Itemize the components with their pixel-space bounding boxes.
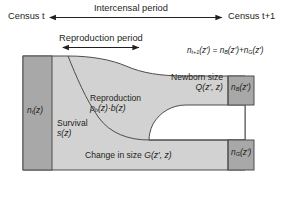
right-top-column-label: nB(z′) xyxy=(231,83,251,93)
left-column-label: nt(z) xyxy=(27,106,43,116)
newborn-size-region-label: Newborn size Q(z′, z) xyxy=(151,73,223,93)
right-bottom-column-label: nG(z′) xyxy=(231,148,251,158)
reproduction-region-label: Reproduction pb(z)·b(z) xyxy=(90,94,141,114)
growth-region-label: Change in size G(z′, z) xyxy=(85,151,172,161)
diagram-shape-layer xyxy=(0,0,287,199)
census-t-plus-1-label: Census t+1 xyxy=(228,11,275,22)
population-equation-label: nt+1(z′) = nB(z′)+nG(z′) xyxy=(187,46,264,55)
intercensal-period-label: Intercensal period xyxy=(94,3,168,14)
reproduction-period-label: Reproduction period xyxy=(59,33,143,44)
ipm-life-cycle-diagram: Census t Census t+1 Intercensal period R… xyxy=(0,0,287,199)
census-t-label: Census t xyxy=(8,11,45,22)
survival-region-label: Survival s(z) xyxy=(57,119,88,139)
